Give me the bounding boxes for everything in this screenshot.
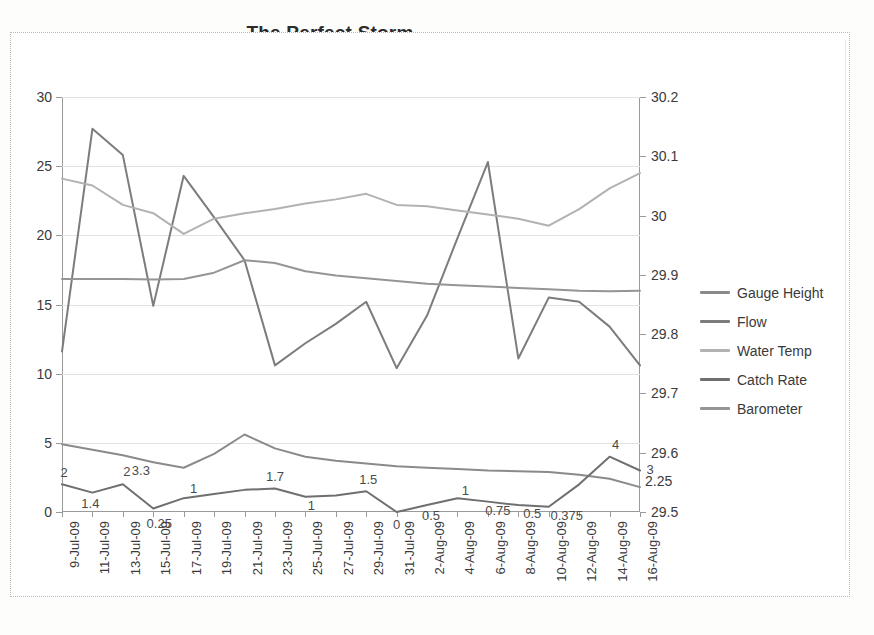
plot-area: 051015202530 29.529.629.729.829.93030.13… [62,97,640,512]
x-axis-label: 8-Aug-09 [523,521,538,574]
legend-swatch-icon [700,349,730,352]
y-axis-right-label: 30.1 [651,148,678,164]
y-axis-right-label: 29.5 [651,504,678,520]
series-line-catch-rate [62,457,640,512]
y-axis-right-label: 30 [651,208,667,224]
y-axis-left-label: 0 [44,504,52,520]
y-axis-left-label: 20 [36,227,52,243]
y-axis-right-tick [640,156,646,157]
series-line-water-temp [62,173,640,234]
y-axis-left-label: 15 [36,297,52,313]
series-lines [62,97,640,512]
x-axis-tick [92,512,93,517]
legend-item-label: Water Temp [737,343,812,359]
x-axis-label: 29-Jul-09 [371,521,386,575]
legend: Gauge HeightFlowWater TempCatch RateBaro… [700,278,823,423]
series-line-gauge-height [62,435,640,488]
x-axis-label: 13-Jul-09 [128,521,143,575]
legend-item-flow[interactable]: Flow [700,307,823,336]
x-axis-label: 19-Jul-09 [219,521,234,575]
y-axis-right-label: 29.8 [651,326,678,342]
y-axis-left-label: 5 [44,435,52,451]
x-axis-tick [214,512,215,517]
y-axis-right-label: 30.2 [651,89,678,105]
x-axis-tick [366,512,367,517]
y-axis-right-label: 29.7 [651,385,678,401]
catch-rate-data-label: 0.25 [147,515,172,530]
x-axis-tick [336,512,337,517]
y-axis-right-tick [640,275,646,276]
x-axis-tick [123,512,124,517]
y-axis-right-tick [640,216,646,217]
catch-rate-data-label: 3 [646,461,653,476]
x-axis-tick [640,512,641,517]
x-axis-label: 6-Aug-09 [493,521,508,574]
y-axis-right-tick [640,453,646,454]
x-axis-tick [457,512,458,517]
x-axis-label: 2-Aug-09 [432,521,447,574]
y-axis-right-tick [640,97,646,98]
y-axis-right-label: 29.6 [651,445,678,461]
x-axis-label: 9-Jul-09 [67,521,82,568]
y-axis-right-tick [640,393,646,394]
legend-item-catch-rate[interactable]: Catch Rate [700,365,823,394]
x-axis-label: 31-Jul-09 [402,521,417,575]
x-axis-tick [245,512,246,517]
legend-swatch-icon [700,291,730,294]
catch-rate-data-label: 0 [393,517,400,532]
x-axis-label: 27-Jul-09 [341,521,356,575]
x-axis-label: 21-Jul-09 [250,521,265,575]
x-axis-tick [610,512,611,517]
series-line-flow [62,129,640,368]
x-axis-label: 16-Aug-09 [645,521,660,582]
x-axis-label: 11-Jul-09 [97,521,112,574]
x-axis-label: 14-Aug-09 [615,521,630,582]
x-axis-label: 4-Aug-09 [462,521,477,574]
y-axis-left-label: 30 [36,89,52,105]
legend-swatch-icon [700,378,730,381]
legend-item-label: Barometer [737,401,802,417]
x-axis-tick [62,512,63,517]
x-axis-tick [275,512,276,517]
x-axis-label: 25-Jul-09 [310,521,325,575]
legend-item-label: Gauge Height [737,285,823,301]
x-axis-label: 10-Aug-09 [554,521,569,582]
legend-swatch-icon [700,407,730,410]
legend-item-water-temp[interactable]: Water Temp [700,336,823,365]
legend-item-gauge-height[interactable]: Gauge Height [700,278,823,307]
x-axis-tick [518,512,519,517]
x-axis-tick [184,512,185,517]
y-axis-right-tick [640,334,646,335]
legend-item-label: Flow [737,314,767,330]
page-edge-rule [845,40,846,560]
x-axis-tick [305,512,306,517]
y-axis-right-label: 29.9 [651,267,678,283]
x-axis-label: 23-Jul-09 [280,521,295,575]
x-axis-label: 17-Jul-09 [189,521,204,575]
legend-item-label: Catch Rate [737,372,807,388]
y-axis-left-label: 25 [36,158,52,174]
x-axis-label: 12-Aug-09 [584,521,599,582]
legend-swatch-icon [700,320,730,323]
y-axis-left-label: 10 [36,366,52,382]
legend-item-barometer[interactable]: Barometer [700,394,823,423]
